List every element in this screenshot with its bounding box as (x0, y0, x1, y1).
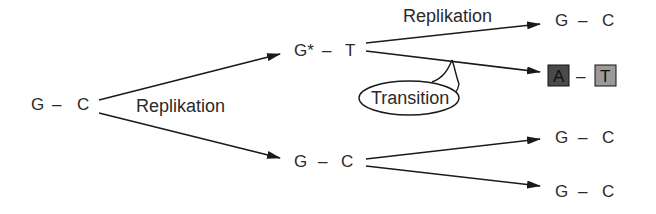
lower-right-base: C (341, 152, 353, 171)
transition-callout: Transition (359, 60, 459, 115)
product-gc-3-right: C (602, 128, 614, 147)
upper-left-base: G* (294, 41, 314, 60)
product-gc-3-left: G (555, 128, 568, 147)
first-replication-label: Replikation (136, 96, 225, 116)
source-bond: – (52, 95, 62, 114)
source-right-base: C (77, 95, 89, 114)
lower-bond: – (318, 152, 328, 171)
product-gc-top-left: G (555, 11, 568, 30)
upper-replication-label: Replikation (403, 6, 492, 26)
source-pair: G – C (31, 95, 89, 114)
product-gc-top-bond: – (578, 11, 588, 30)
upper-bond: – (322, 41, 332, 60)
arrow-to-upper (99, 54, 280, 100)
product-gc-top-right: C (602, 11, 614, 30)
product-gc-4-left: G (555, 182, 568, 201)
arrow-to-gc-3 (366, 139, 540, 159)
product-gc-4-bond: – (578, 182, 588, 201)
product-gc-3: G – C (555, 128, 614, 147)
arrow-to-gc-top (366, 24, 540, 43)
product-at-mutation: A – T (548, 65, 616, 86)
product-gc-3-bond: – (578, 128, 588, 147)
product-at-bond: – (576, 67, 586, 86)
lower-left-base: G (294, 152, 307, 171)
arrow-to-gc-4 (366, 166, 540, 186)
product-at-right: T (600, 67, 610, 86)
arrow-to-lower (99, 113, 280, 158)
upper-right-base: T (345, 41, 355, 60)
lower-pair: G – C (294, 152, 353, 171)
upper-pair: G* – T (294, 41, 355, 60)
product-gc-top: G – C (555, 11, 614, 30)
source-left-base: G (31, 95, 44, 114)
transition-label: Transition (371, 88, 449, 108)
product-at-left: A (553, 67, 565, 86)
product-gc-4: G – C (555, 182, 614, 201)
mutation-diagram: G – C Replikation G* – T Replikation Tra… (0, 0, 656, 214)
product-gc-4-right: C (602, 182, 614, 201)
